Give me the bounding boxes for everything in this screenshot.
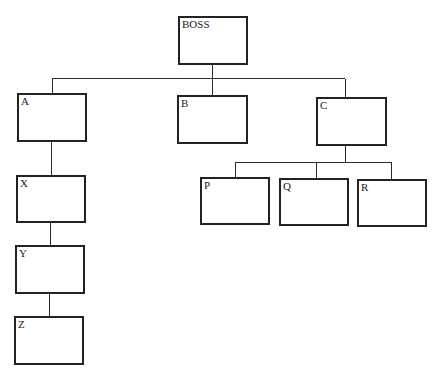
node-label: P [204,180,210,191]
node-c: C [316,97,387,146]
node-q: Q [279,178,349,226]
node-label: Q [283,181,291,192]
node-b: B [177,95,248,144]
connector-to-r [391,162,392,179]
node-boss: BOSS [178,16,248,65]
connector-to-c [345,79,346,97]
connector-to-q [316,162,317,178]
connector-a-x [51,141,52,175]
node-label: Z [18,319,25,330]
node-p: P [200,177,270,225]
node-label: A [21,96,29,107]
node-label: BOSS [182,19,210,30]
node-label: X [20,178,28,189]
node-label: B [181,98,188,109]
connector-y-z [49,293,50,316]
org-chart: BOSS A B C X Y Z P Q R [0,0,442,380]
node-label: Y [19,248,27,259]
node-label: R [361,182,368,193]
node-y: Y [15,245,85,294]
connector-to-a [52,78,53,93]
connector-c-down [345,145,346,162]
connector-level1-bar [52,78,345,79]
node-z: Z [14,316,84,365]
connector-level2-bar [235,162,392,163]
connector-x-y [50,222,51,245]
connector-to-b [212,78,213,95]
node-label: C [320,100,327,111]
connector-boss-down [212,64,213,78]
node-r: R [357,179,427,227]
node-x: X [16,175,86,223]
connector-to-p [235,162,236,177]
node-a: A [17,93,87,142]
